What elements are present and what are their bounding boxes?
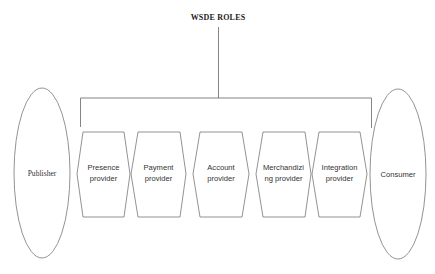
role-label-line1: Payment — [144, 163, 175, 172]
role-label-line1: Account — [207, 163, 235, 172]
role-label-line2: provider — [90, 174, 118, 183]
role-label-line1: Merchandizi — [263, 163, 304, 172]
role-integration-provider: Integration provider — [312, 132, 367, 217]
roles-bracket — [81, 98, 372, 128]
role-label-line2: provider — [145, 174, 173, 183]
role-label-line1: Presence — [87, 163, 119, 172]
role-account-provider: Account provider — [193, 132, 249, 217]
role-label-line2: ng provider — [265, 174, 303, 183]
consumer-label: Consumer — [380, 170, 415, 179]
consumer-ellipse: Consumer — [370, 89, 426, 259]
publisher-label: Publisher — [28, 169, 57, 178]
wsde-roles-diagram: WSDE ROLES Publisher Consumer Presence p… — [0, 0, 435, 274]
diagram-title: WSDE ROLES — [191, 13, 246, 22]
publisher-ellipse: Publisher — [14, 88, 70, 258]
role-presence-provider: Presence provider — [77, 132, 130, 217]
role-label-line1: Integration — [322, 163, 358, 172]
role-payment-provider: Payment provider — [131, 132, 186, 217]
role-merchandizing-provider: Merchandizi ng provider — [256, 132, 311, 217]
role-label-line2: provider — [326, 174, 354, 183]
role-label-line2: provider — [207, 174, 235, 183]
